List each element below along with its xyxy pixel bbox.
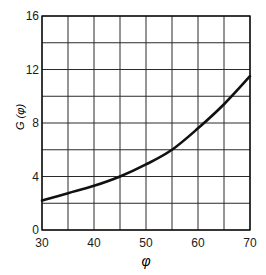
y-axis-tick-labels: 0481216 bbox=[26, 9, 40, 237]
x-tick-label: 70 bbox=[243, 236, 257, 250]
x-axis-tick-labels: 3040506070 bbox=[35, 236, 257, 250]
x-tick-label: 60 bbox=[191, 236, 205, 250]
x-tick-label: 40 bbox=[87, 236, 101, 250]
y-tick-label: 8 bbox=[32, 116, 39, 130]
line-chart: 3040506070 0481216 φ G (φ) bbox=[0, 0, 266, 275]
y-tick-label: 4 bbox=[32, 170, 39, 184]
x-axis-label: φ bbox=[141, 253, 150, 269]
x-tick-label: 30 bbox=[35, 236, 49, 250]
chart: 3040506070 0481216 φ G (φ) bbox=[0, 0, 266, 275]
y-axis-label: G (φ) bbox=[14, 104, 26, 130]
y-tick-label: 12 bbox=[26, 63, 40, 77]
y-tick-label: 16 bbox=[26, 9, 40, 23]
x-tick-label: 50 bbox=[139, 236, 153, 250]
y-tick-label: 0 bbox=[32, 223, 39, 237]
grid bbox=[42, 16, 250, 230]
